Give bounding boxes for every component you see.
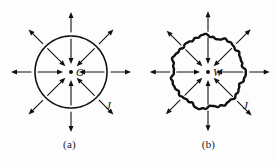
outward-arrow (237, 29, 251, 43)
caption-a: (a) (0, 138, 139, 150)
center-label-a: O (76, 66, 84, 78)
figure-root: O J (a) W J (b) (0, 0, 278, 166)
outward-arrow (111, 70, 131, 75)
inward-arrow (77, 49, 95, 67)
inward-arrow (214, 78, 233, 97)
center-label-b: W (213, 66, 223, 78)
diagram-panel-b: W J (b) (139, 0, 278, 166)
outward-arrow (69, 12, 74, 32)
inward-arrow (69, 80, 74, 105)
center-dot-a (69, 70, 73, 74)
panel-b-graphic: W J (139, 0, 278, 140)
diagram-panel-a: O J (a) (0, 0, 139, 166)
inward-arrow (186, 50, 203, 67)
inward-arrow (214, 48, 232, 66)
outward-arrow (167, 31, 181, 45)
outward-arrow (11, 70, 31, 75)
panel-a-graphic: O J (0, 0, 139, 140)
inward-arrow (185, 78, 202, 95)
outward-arrow (29, 30, 43, 44)
inward-arrow (177, 70, 200, 75)
inward-arrow (206, 80, 211, 104)
inward-arrow (48, 78, 66, 96)
current-density-label-b: J (243, 99, 249, 111)
caption-b: (b) (139, 138, 278, 150)
center-dot-b (206, 70, 210, 74)
outward-arrow (206, 11, 211, 31)
outward-arrow (166, 100, 180, 114)
outward-arrow (250, 70, 270, 75)
outward-arrow (150, 70, 170, 75)
inward-arrow (206, 38, 211, 64)
inward-arrow (48, 49, 66, 67)
outward-arrow (206, 111, 211, 131)
outward-arrow (69, 112, 74, 132)
outward-arrow (29, 100, 43, 114)
outward-arrow (99, 30, 113, 44)
inward-arrow (69, 39, 74, 64)
inward-arrow (77, 78, 95, 96)
inward-arrow (38, 70, 63, 75)
